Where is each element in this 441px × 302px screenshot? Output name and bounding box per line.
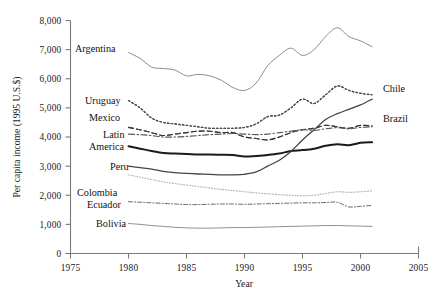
x-tick-label-1975: 1975 [61, 263, 81, 273]
x-tick-label-1980: 1980 [119, 263, 139, 273]
y-tick-label-1000: 1,000 [39, 220, 61, 230]
x-axis-tick-labels: 1975198019851990199520002005 [61, 263, 429, 273]
series-paths [129, 28, 373, 228]
series-label-peru: Peru [110, 161, 129, 172]
y-tick-label-8000: 8,000 [39, 16, 61, 26]
x-tick-label-1990: 1990 [235, 263, 255, 273]
y-tick-label-3000: 3,000 [39, 162, 61, 172]
x-tick-label-1985: 1985 [177, 263, 197, 273]
series-line-latin-america [129, 142, 373, 156]
series-label-ecuador: Ecuador [87, 199, 122, 210]
x-tick-label-2000: 2000 [351, 263, 371, 273]
y-tick-label-4000: 4,000 [39, 132, 61, 142]
series-line-chile [129, 86, 373, 128]
x-axis-title: Year [235, 278, 253, 289]
line-chart: 01,0002,0003,0004,0005,0006,0007,0008,00… [0, 0, 441, 302]
y-axis-title: Per capita income (1995 U.S.$) [11, 77, 23, 198]
x-axis-ticks [71, 254, 419, 259]
series-line-bolivia [129, 224, 373, 229]
series-label-brazil: Brazil [383, 113, 408, 124]
y-tick-label-2000: 2,000 [39, 191, 61, 201]
series-label-latin: Latin [103, 129, 125, 140]
series-label-uruguay: Uruguay [85, 95, 122, 106]
series-label-chile: Chile [383, 83, 406, 94]
series-label-colombia: Colombia [77, 187, 118, 198]
y-axis-ticks [66, 21, 71, 254]
y-tick-label-7000: 7,000 [39, 45, 61, 55]
y-tick-label-6000: 6,000 [39, 74, 61, 84]
series-label-america: America [89, 141, 125, 152]
chart-figure: 01,0002,0003,0004,0005,0006,0007,0008,00… [0, 0, 441, 302]
x-tick-label-2005: 2005 [409, 263, 429, 273]
y-tick-label-5000: 5,000 [39, 103, 61, 113]
series-line-argentina [129, 28, 373, 91]
series-label-bolivia: Bolivia [96, 218, 126, 229]
x-tick-label-1995: 1995 [293, 263, 313, 273]
series-label-mexico: Mexico [89, 112, 120, 123]
y-tick-label-0: 0 [57, 249, 62, 259]
y-axis-tick-labels: 01,0002,0003,0004,0005,0006,0007,0008,00… [39, 16, 61, 259]
series-line-uruguay [129, 86, 373, 128]
series-line-ecuador [129, 202, 373, 207]
series-line-venezuela-dotted [129, 175, 373, 196]
series-label-argentina: Argentina [75, 43, 116, 54]
